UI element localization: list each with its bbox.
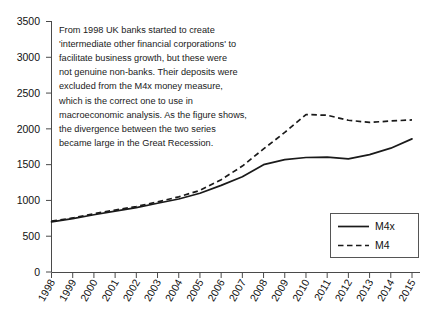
legend-label-m4x: M4x bbox=[375, 220, 396, 232]
money-supply-line-chart: 0500100015002000250030003500 19981999200… bbox=[0, 0, 437, 316]
annotation-line: became large in the Great Recession. bbox=[59, 138, 213, 148]
y-tick-label: 500 bbox=[22, 230, 40, 242]
annotation-line: From 1998 UK banks started to create bbox=[59, 25, 215, 35]
y-tick-label: 3500 bbox=[17, 15, 41, 27]
y-tick-label: 0 bbox=[34, 266, 40, 278]
annotation-line: facilitate business growth, but these we… bbox=[59, 53, 227, 63]
y-tick-label: 3000 bbox=[17, 51, 41, 63]
annotation-line: which is the correct one to use in bbox=[58, 96, 193, 106]
annotation-line: 'intermediate other financial corporatio… bbox=[59, 39, 236, 49]
y-tick-label: 1500 bbox=[17, 158, 41, 170]
annotation-line: macroeconomic analysis. As the figure sh… bbox=[59, 110, 247, 120]
y-tick-label: 2000 bbox=[17, 123, 41, 135]
annotation-line: not genuine non-banks. Their deposits we… bbox=[59, 67, 238, 77]
chart-legend: M4x M4 bbox=[331, 214, 419, 258]
annotation-line: excluded from the M4x money measure, bbox=[59, 81, 223, 91]
annotation-line: the divergence between the two series bbox=[59, 124, 216, 134]
y-tick-label: 2500 bbox=[17, 87, 41, 99]
y-tick-label: 1000 bbox=[17, 194, 41, 206]
legend-label-m4: M4 bbox=[375, 239, 390, 251]
